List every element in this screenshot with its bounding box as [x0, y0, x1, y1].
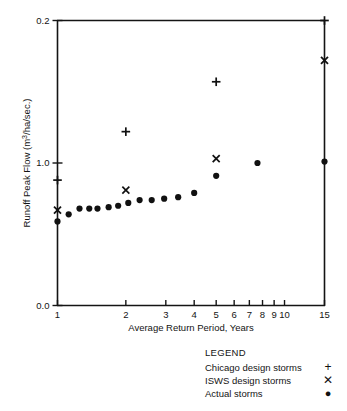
- plot-frame: [57, 20, 325, 306]
- data-point-circle: [149, 197, 155, 203]
- legend-item-actual-storms: Actual storms ●: [205, 387, 344, 400]
- x-tick-label-7: 7: [247, 309, 252, 320]
- data-point-circle: [76, 206, 82, 212]
- legend: LEGEND Chicago design storms + ISWS desi…: [196, 347, 344, 400]
- x-tick-label-1: 1: [55, 309, 60, 320]
- x-tick-label-2: 2: [123, 309, 128, 320]
- y-tick-label-0.0: 0.0: [36, 300, 49, 311]
- x-axis-ticks: [58, 300, 325, 306]
- x-tick-label-3: 3: [163, 309, 168, 320]
- y-axis-tick-labels: 0.21.00.0: [36, 15, 49, 311]
- y-tick-label-1.0: 1.0: [36, 157, 49, 168]
- data-point-circle: [94, 206, 100, 212]
- circle-marker-icon: ●: [320, 387, 344, 400]
- chart-figure: 1234567891015 0.21.00.0 Average Return P…: [0, 0, 347, 411]
- series-actual-storms: [54, 158, 327, 224]
- data-point-circle: [321, 158, 327, 164]
- data-point-circle: [213, 173, 219, 179]
- data-point-circle: [66, 211, 72, 217]
- y-axis-title: Runoff Peak Flow (m3/ha/sec.): [21, 99, 33, 228]
- data-point-circle: [86, 206, 92, 212]
- series-isws-design-storms: [54, 57, 328, 214]
- x-tick-label-15: 15: [319, 309, 330, 320]
- legend-item-isws-design-storms: ISWS design storms ✕: [205, 374, 344, 387]
- data-point-circle: [175, 194, 181, 200]
- legend-title: LEGEND: [205, 347, 344, 358]
- x-tick-label-4: 4: [192, 309, 197, 320]
- data-point-circle: [254, 160, 260, 166]
- x-axis-tick-labels: 1234567891015: [55, 309, 330, 320]
- x-tick-label-5: 5: [214, 309, 219, 320]
- data-point-circle: [191, 190, 197, 196]
- data-point-markers: [53, 16, 329, 224]
- data-point-circle: [106, 204, 112, 210]
- x-tick-label-10: 10: [279, 309, 290, 320]
- data-point-circle: [54, 218, 60, 224]
- legend-label-chicago-design-storms: Chicago design storms: [205, 362, 302, 373]
- legend-label-isws-design-storms: ISWS design storms: [205, 375, 291, 386]
- y-tick-label-0.2: 0.2: [36, 15, 49, 26]
- cross-marker-icon: ✕: [320, 374, 344, 387]
- y-axis-title-group: Runoff Peak Flow (m3/ha/sec.): [21, 99, 33, 228]
- data-point-circle: [161, 196, 167, 202]
- x-tick-label-8: 8: [260, 309, 265, 320]
- data-point-circle: [125, 200, 131, 206]
- x-axis-title: Average Return Period, Years: [128, 322, 254, 333]
- x-tick-label-6: 6: [232, 309, 237, 320]
- data-point-circle: [115, 203, 121, 209]
- legend-label-actual-storms: Actual storms: [205, 388, 263, 399]
- x-tick-label-9: 9: [271, 309, 276, 320]
- series-chicago-design-storms: [53, 16, 329, 184]
- data-point-circle: [137, 197, 143, 203]
